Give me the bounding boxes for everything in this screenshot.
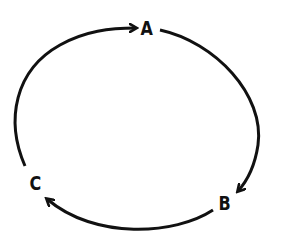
node-c-label: C xyxy=(29,173,41,193)
edge-a-to-b-arrow xyxy=(160,30,259,191)
edge-b-to-c-arrow xyxy=(47,199,213,229)
node-a-label: A xyxy=(141,18,153,38)
edge-c-to-a-arrow xyxy=(15,28,136,166)
node-b-label: B xyxy=(219,193,231,213)
